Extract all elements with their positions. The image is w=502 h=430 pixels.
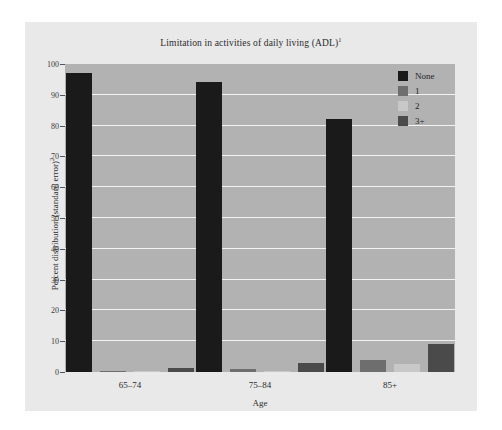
gridline [65, 94, 455, 95]
legend-swatch-icon [398, 116, 408, 126]
bar [264, 371, 290, 373]
gridline [65, 340, 455, 341]
legend-swatch-icon [398, 86, 408, 96]
x-axis-title: Age [65, 398, 455, 408]
y-axis-tick-mark [60, 64, 65, 65]
gridline [65, 309, 455, 310]
plot-area [65, 64, 455, 372]
y-axis-tick-mark [60, 218, 65, 219]
chart-figure: Limitation in activities of daily living… [0, 0, 502, 430]
y-axis-tick-label: 20 [31, 306, 59, 315]
bar [360, 360, 386, 372]
legend-item[interactable]: None [398, 68, 460, 83]
chart-legend: None123+ [398, 68, 460, 128]
chart-title-footnote-marker: 1 [338, 36, 341, 43]
gridline [65, 279, 455, 280]
y-axis-tick-label: 60 [31, 183, 59, 192]
y-axis-tick-mark [60, 372, 65, 373]
legend-item-label: 3+ [415, 116, 425, 126]
y-axis-tick-label: 100 [31, 60, 59, 69]
bar [230, 369, 256, 372]
gridline [65, 125, 455, 126]
legend-item[interactable]: 2 [398, 98, 460, 113]
y-axis-tick-label: 90 [31, 90, 59, 99]
y-axis-tick-mark [60, 156, 65, 157]
y-axis-tick-label: 50 [31, 214, 59, 223]
bar [428, 344, 454, 372]
gridline [65, 248, 455, 249]
y-axis-tick-mark [60, 280, 65, 281]
x-axis-tick-label: 85+ [330, 380, 450, 390]
bar [134, 371, 160, 373]
y-axis-tick-mark [60, 249, 65, 250]
y-axis-tick-mark [60, 95, 65, 96]
bar [326, 119, 352, 372]
legend-item-label: 1 [415, 86, 420, 96]
y-axis-tick-label: 30 [31, 275, 59, 284]
bar [100, 371, 126, 373]
x-axis-tick-label: 75–84 [200, 380, 320, 390]
gridline [65, 155, 455, 156]
y-axis-tick-label: 80 [31, 121, 59, 130]
y-axis-tick-label: 10 [31, 337, 59, 346]
legend-swatch-icon [398, 71, 408, 81]
x-axis-tick-label: 65–74 [70, 380, 190, 390]
legend-item-label: 2 [415, 101, 420, 111]
bar [394, 364, 420, 372]
legend-item[interactable]: 1 [398, 83, 460, 98]
y-axis-tick-label: 40 [31, 244, 59, 253]
bar [196, 82, 222, 372]
y-axis-tick-mark [60, 126, 65, 127]
bar [168, 368, 194, 372]
y-axis-tick-label: 0 [31, 368, 59, 377]
chart-title-text: Limitation in activities of daily living… [160, 38, 338, 48]
y-axis-tick-label: 70 [31, 152, 59, 161]
gridline [65, 186, 455, 187]
y-axis-title: Percent distribution (standard error)2 [48, 74, 60, 374]
bar [298, 363, 324, 372]
y-axis-tick-mark [60, 341, 65, 342]
y-axis-title-text: Percent distribution (standard error) [50, 161, 60, 290]
y-axis-tick-mark [60, 310, 65, 311]
bar [66, 73, 92, 372]
legend-swatch-icon [398, 101, 408, 111]
y-axis-tick-mark [60, 187, 65, 188]
legend-item[interactable]: 3+ [398, 113, 460, 128]
legend-item-label: None [415, 71, 435, 81]
chart-title: Limitation in activities of daily living… [25, 36, 477, 48]
gridline [65, 217, 455, 218]
